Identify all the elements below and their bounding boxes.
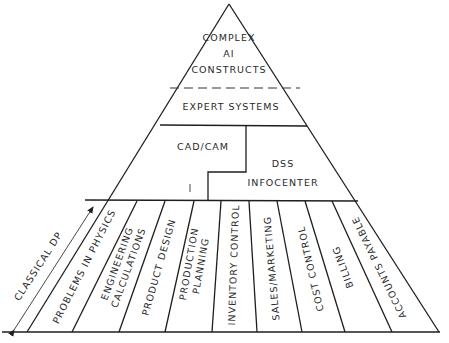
expert-systems-label: EXPERT SYSTEMS [183, 101, 280, 112]
column-labels: PROBLEMS IN PHYSICS ENGINEERING CALCULAT… [50, 204, 408, 325]
pyramid-outline [2, 4, 440, 332]
pyramid-diagram: COMPLEX AI CONSTRUCTS EXPERT SYSTEMS CAD… [0, 0, 449, 343]
column-billing: BILLING [330, 245, 355, 290]
column-production-planning: PRODUCTION PLANNING [177, 226, 212, 303]
svg-text:COMPLEX: COMPLEX [203, 32, 256, 43]
classical-dp-top-line [85, 200, 358, 201]
complex-ai-constructs-label: COMPLEX AI CONSTRUCTS [191, 32, 266, 75]
svg-text:CONSTRUCTS: CONSTRUCTS [191, 64, 266, 75]
cad-dss-divider [208, 126, 246, 200]
column-inventory-control: INVENTORY CONTROL [226, 204, 241, 325]
column-sales-marketing: SALES/MARKETING [261, 216, 281, 321]
dss-infocenter-label: DSS INFOCENTER [248, 158, 319, 188]
column-cost-control: COST CONTROL [295, 225, 325, 313]
svg-text:INFOCENTER: INFOCENTER [248, 177, 319, 188]
pyramid-right-edge [229, 4, 439, 332]
svg-text:AI: AI [223, 48, 234, 59]
expert-systems-bottom-line [160, 125, 307, 126]
cad-cam-label: CAD/CAM [177, 141, 229, 152]
svg-text:DSS: DSS [272, 158, 294, 169]
classical-dp-label: CLASSICAL DP [12, 230, 65, 303]
